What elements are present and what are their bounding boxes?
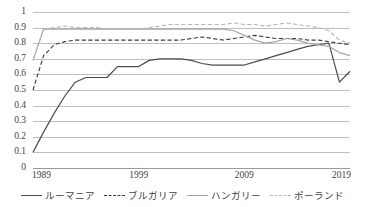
x-axis-labels: 1989199920092019 [0,170,365,184]
legend-swatch-bulgaria [104,195,125,196]
legend-label-hungary: ハンガリー [211,190,261,201]
y-tick-label: 0.4 [14,101,26,111]
chart-legend: ルーマニア ブルガリア ハンガリー ポーランド [0,186,365,204]
series-layer [33,12,350,168]
legend-item-romania[interactable]: ルーマニア [21,190,95,201]
y-tick-label: 0.5 [14,85,26,95]
series-line-hungary [33,29,350,60]
y-tick-label: 1 [21,7,26,17]
x-tick-label: 2019 [332,170,351,181]
x-tick-label: 1999 [129,170,148,181]
y-tick-label: 0.7 [14,54,26,64]
legend-swatch-poland [270,195,291,196]
legend-label-bulgaria: ブルガリア [128,190,178,201]
y-tick-label: 0.1 [14,148,26,158]
series-line-bulgaria [33,35,350,90]
legend-swatch-hungary [187,195,208,196]
legend-item-bulgaria[interactable]: ブルガリア [104,190,178,201]
y-axis-labels: 10.90.80.70.60.50.40.30.20.10 [0,0,31,180]
legend-item-poland[interactable]: ポーランド [270,190,344,201]
x-tick-label: 1989 [32,170,51,181]
legend-swatch-romania [21,195,42,196]
plot-area [33,12,350,168]
legend-label-poland: ポーランド [294,190,344,201]
y-tick-label: 0.6 [14,70,26,80]
y-tick-label: 0.3 [14,116,26,126]
x-axis-line [33,168,350,169]
legend-label-romania: ルーマニア [45,190,95,201]
line-chart: 10.90.80.70.60.50.40.30.20.10 1989199920… [0,0,365,207]
legend-item-hungary[interactable]: ハンガリー [187,190,261,201]
series-line-romania [33,43,350,152]
x-tick-label: 2009 [235,170,254,181]
y-tick-label: 0.8 [14,38,26,48]
y-tick-label: 0.9 [14,23,26,33]
y-tick-label: 0.2 [14,132,26,142]
